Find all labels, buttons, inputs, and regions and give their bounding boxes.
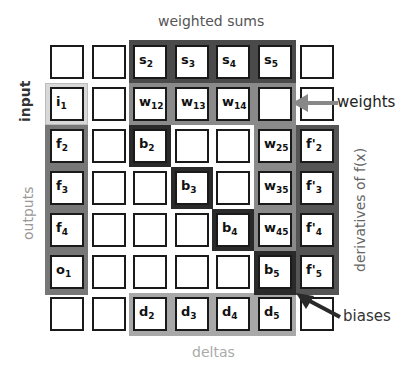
matrix-cell: w14 [216, 87, 250, 121]
matrix-cell: d5 [258, 297, 292, 331]
cell-label: d4 [222, 304, 238, 321]
derivatives-caption: derivatives of f(x) [352, 148, 368, 272]
matrix-cell: f3 [50, 171, 84, 205]
biases-arrow-icon [294, 292, 344, 322]
matrix-cell [175, 213, 209, 247]
matrix-cell: b2 [133, 129, 167, 163]
matrix-cell: f4 [50, 213, 84, 247]
matrix-cell: w35 [258, 171, 292, 205]
matrix-cell [300, 45, 334, 79]
cell-label: b4 [222, 220, 238, 237]
cell-label: f4 [56, 220, 68, 237]
matrix-cell: s4 [216, 45, 250, 79]
cell-label: d3 [181, 304, 197, 321]
cell-label: w45 [264, 220, 289, 237]
matrix-cell [92, 297, 126, 331]
cell-label: w25 [264, 136, 289, 153]
matrix-cell: w12 [133, 87, 167, 121]
matrix-cell [92, 129, 126, 163]
matrix-cell [92, 171, 126, 205]
cell-label: f3 [56, 178, 68, 195]
matrix-cell [133, 255, 167, 289]
matrix-cell [92, 87, 126, 121]
matrix-cell: i1 [50, 87, 84, 121]
cell-label: o1 [56, 262, 71, 279]
matrix-cell: o1 [50, 255, 84, 289]
input-caption: input [17, 81, 33, 122]
matrix-cell [258, 87, 292, 121]
cell-label: s3 [181, 52, 195, 69]
matrix-cell: b5 [258, 255, 292, 289]
matrix-cell [92, 213, 126, 247]
cell-label: f2 [56, 136, 68, 153]
cell-label: d2 [139, 304, 155, 321]
cell-label: i1 [56, 94, 67, 111]
matrix-cell: w25 [258, 129, 292, 163]
matrix-cell: s2 [133, 45, 167, 79]
cell-label: w12 [139, 94, 164, 111]
cell-label: w14 [222, 94, 247, 111]
cell-label: s5 [264, 52, 278, 69]
cell-label: b3 [181, 178, 197, 195]
cell-label: w13 [181, 94, 206, 111]
cell-label: f'2 [306, 136, 322, 153]
matrix-cell [50, 297, 84, 331]
cell-label: w35 [264, 178, 289, 195]
matrix-cell: w45 [258, 213, 292, 247]
cell-label: b5 [264, 262, 280, 279]
matrix-cell: f'4 [300, 213, 334, 247]
matrix-cell [216, 255, 250, 289]
outputs-caption: outputs [20, 187, 36, 240]
matrix-cell: s5 [258, 45, 292, 79]
matrix-cell [216, 129, 250, 163]
matrix-cell: b3 [175, 171, 209, 205]
matrix-cell [92, 255, 126, 289]
matrix-cell: f2 [50, 129, 84, 163]
matrix-cell [50, 45, 84, 79]
cell-label: f'3 [306, 178, 322, 195]
matrix-cell: f'5 [300, 255, 334, 289]
weighted-sums-caption: weighted sums [158, 13, 264, 29]
matrix-cell: d4 [216, 297, 250, 331]
matrix-cell: b4 [216, 213, 250, 247]
weights-arrow-icon [290, 92, 340, 114]
cell-label: s2 [139, 52, 153, 69]
weights-caption: weights [337, 93, 395, 111]
cell-label: d5 [264, 304, 280, 321]
matrix-cell [133, 213, 167, 247]
biases-caption: biases [343, 307, 391, 325]
cell-label: f'5 [306, 262, 322, 279]
matrix-cell: f'3 [300, 171, 334, 205]
matrix-cell: f'2 [300, 129, 334, 163]
matrix-cell [92, 45, 126, 79]
matrix-cell [175, 255, 209, 289]
matrix-cell: d2 [133, 297, 167, 331]
matrix-cell: s3 [175, 45, 209, 79]
deltas-caption: deltas [192, 344, 235, 360]
matrix-cell: w13 [175, 87, 209, 121]
matrix-cell: d3 [175, 297, 209, 331]
cell-label: f'4 [306, 220, 322, 237]
matrix-cell [175, 129, 209, 163]
cell-label: b2 [139, 136, 155, 153]
matrix-cell [133, 171, 167, 205]
cell-label: s4 [222, 52, 236, 69]
matrix-cell [216, 171, 250, 205]
